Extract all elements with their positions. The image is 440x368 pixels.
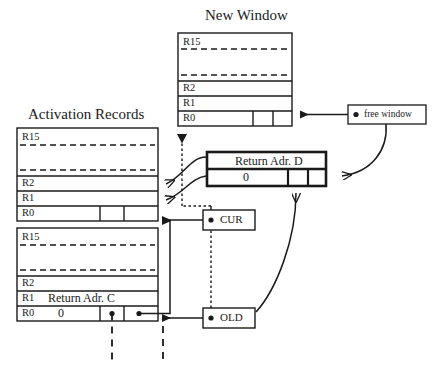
return-adr-d-value: 0 [243, 171, 249, 183]
new-window-reg-r15: R15 [183, 37, 201, 48]
old-dot [208, 315, 213, 320]
ar-bottom-reg-r2: R2 [22, 278, 34, 289]
connector-return-adr-d-to-activation-top [166, 157, 206, 200]
connector-old-to-return-adr-d-cells [256, 193, 296, 312]
free-window-label: free window [364, 110, 412, 120]
ar-top-reg-r1: R1 [22, 193, 34, 204]
ar-bottom-r0-value: 0 [58, 307, 64, 319]
return-adr-d-label: Return Adr. D [235, 155, 303, 167]
diagram-canvas: New Window Activation Records R15 R2 R1 … [0, 0, 440, 368]
cur-label: CUR [220, 214, 243, 225]
ar-bottom-reg-r1: R1 [22, 293, 34, 304]
ar-bottom-reg-r15: R15 [22, 232, 40, 243]
page-title-activation-records: Activation Records [28, 107, 144, 122]
new-window-reg-r0: R0 [183, 113, 195, 124]
old-label: OLD [220, 312, 243, 323]
connector-free-window-to-return-adr-d [342, 124, 386, 176]
ar-bottom-r1-value: Return Adr. C [48, 292, 115, 304]
new-window-reg-r2: R2 [183, 83, 195, 94]
new-window-reg-r1: R1 [183, 98, 195, 109]
ar-top-reg-r0: R0 [22, 208, 34, 219]
ar-bottom-reg-r0: R0 [22, 308, 34, 319]
ar-top-reg-r2: R2 [22, 178, 34, 189]
page-title-new-window: New Window [205, 8, 288, 23]
ar-top-reg-r15: R15 [22, 132, 40, 143]
cur-dot [208, 217, 213, 222]
free-window-dot [353, 112, 358, 117]
